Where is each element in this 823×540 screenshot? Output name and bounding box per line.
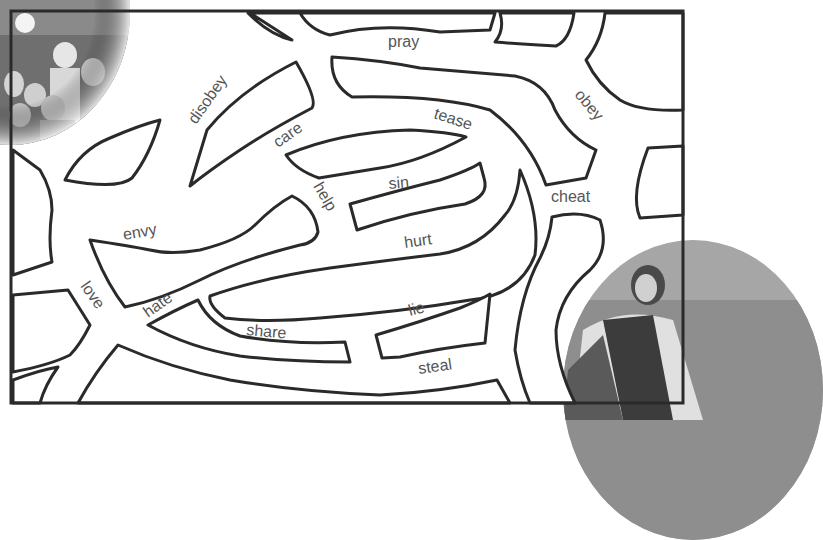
- word-cheat: cheat: [551, 188, 591, 205]
- wall-block: [13, 367, 58, 403]
- word-share: share: [246, 321, 287, 341]
- wall-block: [248, 13, 495, 40]
- wall-block: [350, 163, 485, 230]
- word-steal: steal: [417, 355, 453, 377]
- wall-block: [65, 120, 160, 185]
- word-obey: obey: [572, 86, 607, 124]
- wall-block: [13, 290, 90, 372]
- wall-block: [495, 13, 574, 46]
- word-sin: sin: [388, 173, 410, 192]
- word-love: love: [78, 278, 109, 312]
- word-tease: tease: [432, 105, 475, 133]
- word-envy: envy: [122, 220, 158, 243]
- word-pray: pray: [388, 33, 419, 50]
- word-hurt: hurt: [403, 230, 433, 251]
- wall-block: [13, 150, 52, 275]
- word-help: help: [310, 179, 340, 214]
- wall-block: [636, 146, 683, 218]
- maze-walls: [13, 13, 683, 403]
- wall-block: [286, 130, 466, 178]
- wall-block: [586, 13, 683, 110]
